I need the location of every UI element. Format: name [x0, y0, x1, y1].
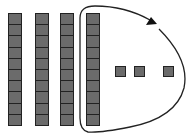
loop-curve-upper — [80, 6, 150, 118]
loop-curve-lower — [80, 29, 185, 132]
base-ten-diagram — [0, 0, 188, 137]
regroup-loop-arrow — [0, 0, 188, 137]
